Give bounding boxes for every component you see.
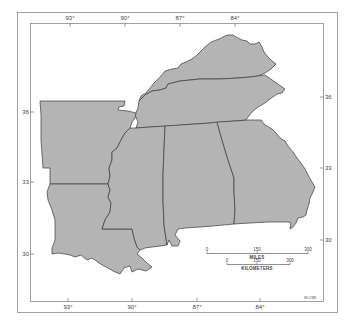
longitude-ticks-bottom bbox=[68, 298, 260, 302]
states-layer bbox=[40, 35, 315, 274]
scale-miles-0: 0 bbox=[206, 247, 209, 252]
scale-miles-150: 150 bbox=[253, 247, 261, 252]
lat-label-right-33: 33 bbox=[325, 165, 332, 171]
lon-label-top-90: 90° bbox=[120, 15, 130, 21]
lon-label-top-93: 93° bbox=[65, 15, 75, 21]
lat-label-left-30: 30 bbox=[22, 251, 29, 257]
scale-km-300: 300 bbox=[286, 258, 294, 263]
lon-label-bottom-84: 84° bbox=[255, 304, 265, 310]
lon-label-top-84: 84° bbox=[230, 15, 240, 21]
lon-label-bottom-90: 90° bbox=[127, 304, 137, 310]
map-figure: 93° 90° 87° 84° 93° 90° 87° 84° 36 33 30… bbox=[0, 0, 353, 329]
map-credit: NLC/88 bbox=[304, 296, 316, 300]
lat-label-right-30: 30 bbox=[325, 237, 332, 243]
latitude-ticks-left bbox=[31, 112, 35, 254]
scale-km-title: KILOMETERS bbox=[241, 266, 273, 271]
scale-miles-300: 300 bbox=[304, 247, 312, 252]
scale-bar: 0 150 300 MILES 0 150 300 KILOMETERS bbox=[206, 247, 313, 271]
lon-label-bottom-93: 93° bbox=[63, 304, 73, 310]
lat-label-left-33: 33 bbox=[22, 179, 29, 185]
scale-km-150: 150 bbox=[253, 258, 261, 263]
latitude-ticks-right bbox=[320, 97, 324, 240]
lat-label-right-36: 36 bbox=[325, 94, 332, 100]
longitude-ticks-top bbox=[70, 24, 235, 28]
lon-label-top-87: 87° bbox=[175, 15, 185, 21]
scale-km-0: 0 bbox=[226, 258, 229, 263]
lat-label-left-36: 36 bbox=[22, 109, 29, 115]
lon-label-bottom-87: 87° bbox=[192, 304, 202, 310]
